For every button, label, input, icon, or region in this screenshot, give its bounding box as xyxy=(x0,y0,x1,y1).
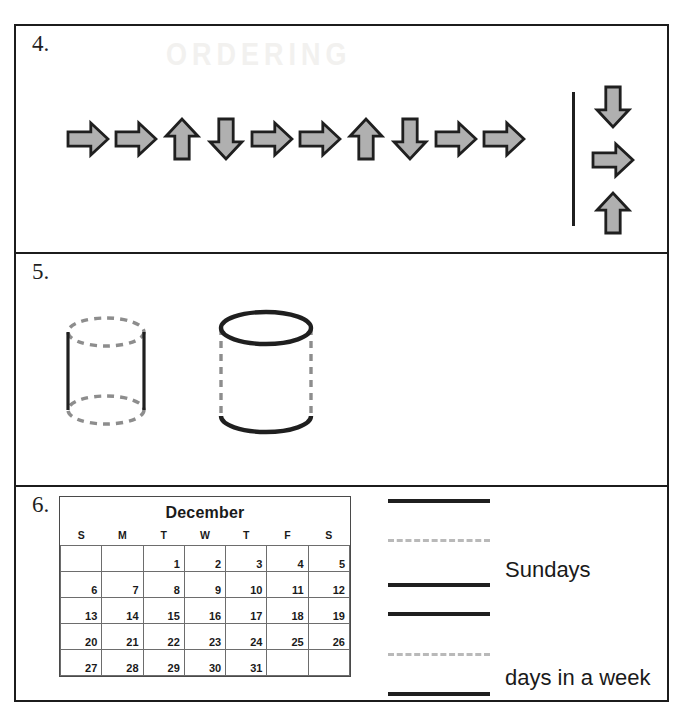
calendar-week-row: 20 21 22 23 24 25 26 xyxy=(61,624,350,650)
calendar-day-cell: 30 xyxy=(184,650,225,676)
calendar-table: S M T W T F S 1 2 3 xyxy=(60,527,350,676)
calendar-day-cell: 1 xyxy=(143,546,184,572)
arrow-down-icon xyxy=(390,114,430,164)
calendar-day-cell: 7 xyxy=(102,572,143,598)
arrow-right-icon xyxy=(298,119,342,159)
question-5-section: 5. xyxy=(16,254,667,487)
weekday-header: W xyxy=(184,527,225,546)
cylinder-solid-ends-icon xyxy=(212,304,320,440)
calendar-day-cell: 15 xyxy=(143,598,184,624)
calendar-header-row: S M T W T F S xyxy=(61,527,350,546)
arrow-pattern-sequence xyxy=(66,114,526,164)
question-6-section: 6. December S M T W T F S xyxy=(16,487,667,700)
arrow-right-icon xyxy=(434,119,478,159)
arrow-up-icon xyxy=(346,114,386,164)
question-5-number: 5. xyxy=(32,260,49,283)
calendar-day-cell: 14 xyxy=(102,598,143,624)
calendar-day-cell: 22 xyxy=(143,624,184,650)
arrow-right-icon[interactable] xyxy=(591,140,635,180)
calendar-day-cell xyxy=(267,650,308,676)
calendar-week-row: 6 7 8 9 10 11 12 xyxy=(61,572,350,598)
answer-line[interactable] xyxy=(388,653,490,656)
calendar-day-cell: 19 xyxy=(308,598,349,624)
arrow-down-icon xyxy=(206,114,246,164)
arrow-up-icon[interactable] xyxy=(593,188,633,238)
question-6-number: 6. xyxy=(32,493,49,516)
answer-line[interactable] xyxy=(388,499,490,503)
answer-line[interactable] xyxy=(388,583,490,587)
calendar-day-cell: 8 xyxy=(143,572,184,598)
answer-label-sundays: Sundays xyxy=(505,557,591,583)
calendar-day-cell: 11 xyxy=(267,572,308,598)
arrow-down-icon[interactable] xyxy=(593,82,633,132)
arrow-right-icon xyxy=(66,119,110,159)
arrow-right-icon xyxy=(482,119,526,159)
question-4-section: 4. xyxy=(16,26,667,254)
answer-choices-divider xyxy=(572,92,575,226)
calendar-day-cell: 29 xyxy=(143,650,184,676)
calendar-day-cell: 5 xyxy=(308,546,349,572)
calendar-day-cell xyxy=(102,546,143,572)
calendar-day-cell: 25 xyxy=(267,624,308,650)
calendar-day-cell: 23 xyxy=(184,624,225,650)
calendar-week-row: 1 2 3 4 5 xyxy=(61,546,350,572)
answer-label-days-in-a-week: days in a week xyxy=(505,665,651,691)
weekday-header: S xyxy=(61,527,102,546)
calendar-day-cell: 3 xyxy=(226,546,267,572)
calendar-day-cell xyxy=(61,546,102,572)
calendar-day-cell: 12 xyxy=(308,572,349,598)
answer-line[interactable] xyxy=(388,612,490,616)
calendar-day-cell: 2 xyxy=(184,546,225,572)
calendar-day-cell: 27 xyxy=(61,650,102,676)
answer-line[interactable] xyxy=(388,539,490,542)
calendar-day-cell: 31 xyxy=(226,650,267,676)
weekday-header: M xyxy=(102,527,143,546)
calendar-title: December xyxy=(60,497,350,527)
calendar-day-cell: 13 xyxy=(61,598,102,624)
weekday-header: T xyxy=(143,527,184,546)
calendar-day-cell: 17 xyxy=(226,598,267,624)
calendar-day-cell: 26 xyxy=(308,624,349,650)
cylinder-dashed-ends-icon xyxy=(60,312,152,430)
calendar-week-row: 27 28 29 30 31 xyxy=(61,650,350,676)
calendar-day-cell: 9 xyxy=(184,572,225,598)
weekday-header: F xyxy=(267,527,308,546)
arrow-right-icon xyxy=(250,119,294,159)
calendar-day-cell: 10 xyxy=(226,572,267,598)
calendar-day-cell: 21 xyxy=(102,624,143,650)
december-calendar: December S M T W T F S xyxy=(59,496,351,677)
arrow-up-icon xyxy=(162,114,202,164)
calendar-day-cell: 28 xyxy=(102,650,143,676)
calendar-week-row: 13 14 15 16 17 18 19 xyxy=(61,598,350,624)
calendar-day-cell: 16 xyxy=(184,598,225,624)
answer-line[interactable] xyxy=(388,692,490,696)
question-4-number: 4. xyxy=(32,32,49,55)
weekday-header: T xyxy=(226,527,267,546)
calendar-day-cell: 24 xyxy=(226,624,267,650)
calendar-day-cell: 6 xyxy=(61,572,102,598)
arrow-right-icon xyxy=(114,119,158,159)
calendar-day-cell xyxy=(308,650,349,676)
worksheet-frame: ORDERING 4. xyxy=(14,24,669,702)
calendar-day-cell: 20 xyxy=(61,624,102,650)
weekday-header: S xyxy=(308,527,349,546)
answer-choices-column xyxy=(591,82,635,238)
calendar-day-cell: 4 xyxy=(267,546,308,572)
calendar-day-cell: 18 xyxy=(267,598,308,624)
